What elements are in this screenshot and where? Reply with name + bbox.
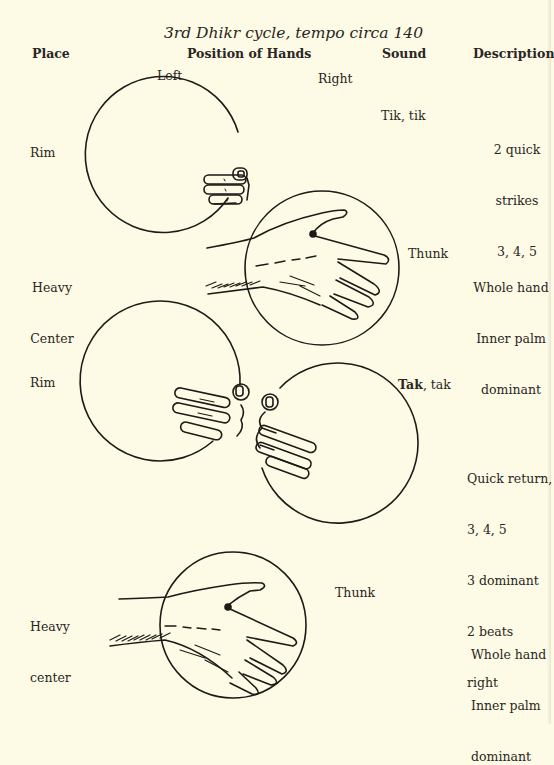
row2-place: Heavy Center — [30, 245, 74, 364]
row2-place-line: Heavy — [30, 279, 74, 296]
drum-circle-row4 — [160, 552, 306, 698]
row2-place-line: Center — [30, 330, 74, 347]
row1-place: Rim — [30, 144, 55, 161]
row3-description-line: 3, 4, 5 — [467, 521, 552, 538]
drum-circle-row3-left — [80, 301, 240, 461]
row2-sound: Thunk — [408, 245, 448, 262]
row3-description-line: 3 dominant — [467, 572, 552, 589]
right-hand-flat-icon-row4 — [110, 583, 297, 695]
row3-sound-rest: , tak — [423, 377, 451, 392]
row1-description-line: strikes — [486, 192, 548, 209]
row1-sound: Tik, tik — [381, 107, 425, 124]
row4-place-line: center — [30, 669, 71, 686]
row4-description-line: dominant — [471, 748, 546, 765]
row3-description-line: Quick return, — [467, 470, 552, 487]
row2-description-line: dominant — [470, 381, 552, 398]
row3-sound: Tak, tak — [398, 376, 451, 393]
left-hand-icon-row3 — [172, 384, 249, 441]
right-hand-icon-row3 — [255, 394, 318, 480]
left-hand-icon-row1 — [204, 168, 249, 204]
row4-place: Heavy center — [30, 584, 71, 703]
row4-sound: Thunk — [335, 584, 375, 601]
row4-description: Whole hand Inner palm dominant — [471, 612, 546, 765]
right-hand-flat-icon-row2 — [206, 210, 389, 319]
row4-description-line: Whole hand — [471, 646, 546, 663]
row2-description: Whole hand Inner palm dominant — [470, 245, 552, 415]
row3-place: Rim — [30, 374, 55, 391]
row1-description-line: 2 quick — [486, 141, 548, 158]
drum-circle-row2-right — [245, 191, 399, 345]
row4-description-line: Inner palm — [471, 697, 546, 714]
row2-description-line: Whole hand — [470, 279, 552, 296]
row3-sound-accent: Tak — [398, 377, 423, 392]
drum-circle-row1-left — [85, 76, 238, 232]
row4-place-line: Heavy — [30, 618, 71, 635]
row2-description-line: Inner palm — [470, 330, 552, 347]
